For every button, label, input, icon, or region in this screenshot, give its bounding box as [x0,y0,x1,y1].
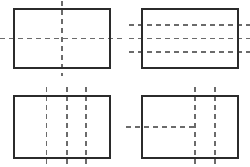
panel-bottom-left [14,87,110,167]
technical-drawing-figure [0,0,250,167]
drawing-canvas [0,0,250,167]
panel-bottom-right [126,87,238,167]
rectangle-outline [14,96,110,158]
panel-top-left [0,1,126,76]
panel-top-right [129,9,250,68]
